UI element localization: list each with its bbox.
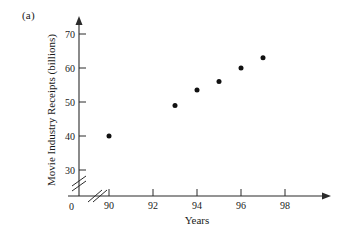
figure-panel: (a) 0 30 40 50 60	[0, 0, 348, 228]
y-tick-label-50: 50	[65, 97, 75, 108]
x-axis-title: Years	[185, 214, 210, 226]
x-tick-label-96: 96	[236, 200, 246, 211]
scatter-plot: 0 30 40 50 60 70 90 92 94 96 98	[0, 0, 348, 228]
y-tick-label-40: 40	[65, 131, 75, 142]
data-point	[107, 134, 112, 139]
data-point	[261, 55, 266, 60]
y-tick-label-60: 60	[65, 63, 75, 74]
x-tick-label-98: 98	[280, 200, 290, 211]
data-point	[217, 79, 222, 84]
x-tick-group: 90 92 94 96 98	[104, 189, 290, 211]
data-point-group	[107, 55, 266, 138]
y-tick-group: 30 40 50 60 70	[65, 29, 86, 176]
data-point	[173, 103, 178, 108]
x-axis-arrow-icon	[322, 193, 331, 200]
y-axis-title: Movie Industry Receipts (billions)	[45, 34, 58, 186]
origin-tick-label: 0	[69, 201, 74, 212]
y-tick-label-70: 70	[65, 29, 75, 40]
x-tick-label-94: 94	[192, 200, 202, 211]
x-tick-label-92: 92	[148, 200, 158, 211]
y-axis-arrow-icon	[76, 16, 83, 25]
data-point	[239, 66, 244, 71]
data-point	[195, 88, 200, 93]
x-tick-label-90: 90	[104, 200, 114, 211]
y-tick-label-30: 30	[65, 165, 75, 176]
